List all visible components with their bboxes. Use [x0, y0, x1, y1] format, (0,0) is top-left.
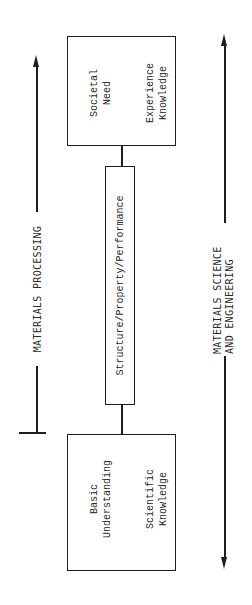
- structure-property-performance-label: Structure/Property/Performance: [114, 166, 127, 406]
- mse-axis-line-upper: [224, 45, 226, 223]
- arrow-down-icon: [221, 557, 227, 569]
- experience-knowledge-label: Experience Knowledge: [144, 48, 170, 138]
- basic-understanding-label: Basic Understanding: [88, 446, 114, 552]
- processing-axis-end-bar: [19, 432, 46, 434]
- materials-science-engineering-label: MATERIALS SCIENCE AND ENGINEERING: [212, 220, 238, 360]
- scientific-knowledge-label: Scientific Knowledge: [144, 446, 170, 552]
- processing-axis-line-lower: [36, 366, 38, 434]
- societal-need-label: Societal Need: [88, 48, 114, 138]
- mse-axis-line-lower: [224, 356, 226, 558]
- connector-top: [121, 146, 123, 167]
- connector-bottom: [121, 404, 123, 435]
- processing-axis-line-upper: [36, 66, 38, 212]
- materials-processing-label: MATERIALS PROCESSING: [32, 214, 46, 364]
